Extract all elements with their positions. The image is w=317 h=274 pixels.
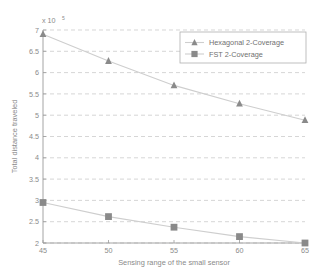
data-point-marker — [302, 240, 309, 247]
y-tick-label: 5 — [35, 111, 39, 120]
x-axis-title: Sensing range of the small sensor — [118, 258, 230, 267]
series-fst-2-coverage — [40, 199, 309, 246]
series-line — [43, 203, 305, 244]
y-tick-label: 4 — [35, 153, 39, 162]
y-axis-title: Total distance traveled — [10, 100, 19, 174]
data-point-marker — [171, 224, 178, 231]
data-point-marker — [236, 233, 243, 240]
data-point-marker — [40, 30, 47, 37]
chart-legend[interactable]: Hexagonal 2-Coverage FST 2-Coverage — [180, 32, 306, 63]
y-exponent-power: 5 — [62, 15, 65, 21]
x-tick-label: 45 — [39, 246, 47, 255]
y-tick-label: 3.5 — [29, 175, 39, 184]
legend-label-hexagonal: Hexagonal 2-Coverage — [209, 38, 284, 47]
y-tick-label: 4.5 — [29, 132, 39, 141]
data-point-marker — [40, 199, 47, 206]
legend-label-fst: FST 2-Coverage — [209, 50, 263, 59]
x-tick-label: 65 — [301, 246, 309, 255]
x-tick-label: 60 — [236, 246, 244, 255]
x-tick-label: 50 — [105, 246, 113, 255]
chart-canvas: 2 2.5 3 3.5 4 4.5 5 5.5 6 6.5 7 45 50 55… — [0, 0, 317, 274]
y-exponent-base: x 10 — [42, 16, 56, 25]
square-marker-icon — [191, 51, 197, 57]
y-tick-label: 3 — [35, 196, 39, 205]
y-tick-label: 7 — [35, 26, 39, 35]
y-tick-label: 6 — [35, 68, 39, 77]
x-tick-label: 55 — [170, 246, 178, 255]
y-tick-labels: 2 2.5 3 3.5 4 4.5 5 5.5 6 6.5 7 — [29, 26, 39, 248]
y-tick-label: 6.5 — [29, 47, 39, 56]
y-tick-label: 5.5 — [29, 90, 39, 99]
y-axis-exponent: x 10 5 — [42, 15, 65, 26]
x-tick-labels: 45 50 55 60 65 — [39, 246, 309, 255]
data-point-marker — [105, 213, 112, 220]
y-tick-label: 2.5 — [29, 217, 39, 226]
chart-figure: 2 2.5 3 3.5 4 4.5 5 5.5 6 6.5 7 45 50 55… — [0, 0, 317, 274]
